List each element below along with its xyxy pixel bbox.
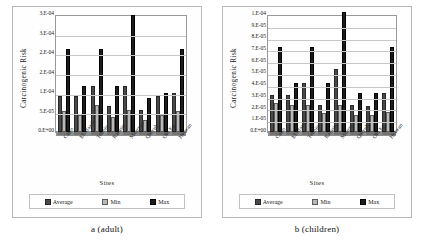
y-tick-label: 1.E-04 (252, 11, 266, 16)
y-tick-label: 0.E+00 (250, 128, 266, 133)
gridline (56, 114, 186, 115)
legend-item-min-b: Min (312, 199, 330, 205)
legend-label-max: Max (368, 199, 379, 205)
y-tick-label: 3.E-05 (252, 93, 266, 98)
legend-a: Average Min Max (29, 194, 185, 209)
bar-group (366, 16, 378, 132)
panel-b-children: Carcinogenic Risk 1.E-049.E-058.E-057.E-… (214, 6, 420, 234)
y-tick-label: 9.E-05 (252, 23, 266, 28)
bar-max (294, 16, 298, 132)
gridline (268, 51, 396, 52)
y-tick-label: 3.E-04 (40, 11, 54, 16)
y-tick-label: 6.E-05 (252, 58, 266, 63)
y-tick-label: 5.E-05 (252, 69, 266, 74)
plot-grid-a (55, 15, 187, 133)
bar-max (310, 16, 314, 132)
y-tick-label: 1.E-05 (252, 116, 266, 121)
gridline (268, 28, 396, 29)
bar-group (334, 16, 346, 132)
bar-group (382, 16, 394, 132)
y-tick-label: 2.E-05 (252, 105, 266, 110)
gridline (268, 87, 396, 88)
legend-item-average-a: Average (45, 199, 73, 205)
legend-swatch-max-icon (150, 199, 156, 205)
bar-max (374, 16, 378, 132)
gridline (268, 40, 396, 41)
y-axis-ticks-a: 3.E-043.E-042.E-042.E-041.E-045.E-050.E+… (31, 13, 54, 135)
x-axis-title-a: Sites (13, 179, 201, 186)
x-axis-tick-labels-b: CairoEl MaadiTebbinRamsisMaarryaQalyubOl… (267, 135, 397, 177)
legend-label-min: Min (110, 199, 120, 205)
x-axis-tick-labels-a: CairoEl MaadiTebbinRamsisMaarryaQalyubOl… (55, 135, 187, 177)
legend-item-min-a: Min (102, 199, 120, 205)
gridline (268, 110, 396, 111)
legend-swatch-max-icon (360, 199, 366, 205)
gridline (56, 55, 186, 56)
legend-swatch-min-icon (102, 199, 108, 205)
y-tick-label: 5.E-05 (40, 109, 54, 114)
legend-swatch-average-icon (45, 199, 51, 205)
legend-b: Average Min Max (239, 194, 395, 209)
y-tick-label: 0.E+00 (38, 128, 54, 133)
bar-max (358, 16, 362, 132)
y-tick-label: 8.E-05 (252, 34, 266, 39)
y-tick-label: 2.E-04 (40, 50, 54, 55)
bar-max (278, 16, 282, 132)
gridline (56, 75, 186, 76)
legend-swatch-min-icon (312, 199, 318, 205)
y-axis-title-a: Carcinogenic Risk (17, 19, 31, 137)
bar-max (326, 16, 330, 132)
bar-series-b (268, 16, 396, 132)
plot-grid-b (267, 15, 397, 133)
y-tick-label: 3.E-04 (40, 31, 54, 36)
bar-max (390, 16, 394, 132)
legend-label-average: Average (53, 199, 73, 205)
gridline (268, 75, 396, 76)
figure-page: Carcinogenic Risk 3.E-043.E-042.E-042.E-… (0, 0, 424, 250)
gridline (56, 95, 186, 96)
y-axis-title-b: Carcinogenic Risk (227, 19, 241, 137)
bar-group (318, 16, 330, 132)
y-tick-label: 1.E-04 (40, 89, 54, 94)
gridline (268, 63, 396, 64)
bar-group (302, 16, 314, 132)
legend-label-max: Max (158, 199, 169, 205)
legend-label-average: Average (263, 199, 283, 205)
bar-group (270, 16, 282, 132)
y-tick-label: 2.E-04 (40, 70, 54, 75)
gridline (56, 36, 186, 37)
y-tick-label: 4.E-05 (252, 81, 266, 86)
bar-group (286, 16, 298, 132)
legend-item-average-b: Average (255, 199, 283, 205)
bar-max (342, 16, 346, 132)
legend-item-max-b: Max (360, 199, 379, 205)
y-tick-label: 7.E-05 (252, 46, 266, 51)
chart-frame-a: Carcinogenic Risk 3.E-043.E-042.E-042.E-… (12, 6, 202, 218)
panel-caption-b: b (children) (295, 224, 340, 234)
panel-caption-a: a (adult) (91, 224, 123, 234)
chart-frame-b: Carcinogenic Risk 1.E-049.E-058.E-057.E-… (222, 6, 412, 218)
y-axis-ticks-b: 1.E-049.E-058.E-057.E-056.E-055.E-054.E-… (241, 13, 266, 135)
legend-swatch-average-icon (255, 199, 261, 205)
gridline (268, 99, 396, 100)
panel-a-adult: Carcinogenic Risk 3.E-043.E-042.E-042.E-… (4, 6, 210, 234)
legend-item-max-a: Max (150, 199, 169, 205)
legend-label-min: Min (320, 199, 330, 205)
x-axis-title-b: Sites (223, 179, 411, 186)
bar-group (350, 16, 362, 132)
